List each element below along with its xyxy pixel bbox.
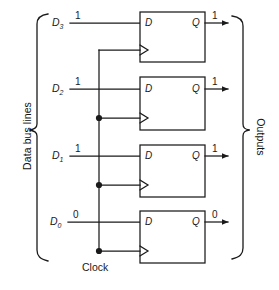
input-bit-values: 1 1 1 0	[73, 10, 81, 220]
input-value-d3: 1	[75, 10, 81, 21]
pin-d-label-d0: D	[145, 216, 152, 227]
input-label-d3: D3	[52, 16, 64, 30]
pin-q-label-d3: Q	[192, 17, 200, 28]
schematic-svg: D Q D Q D Q D Q D3 D2 D1 D0 1	[0, 0, 279, 290]
pin-q-label-d0: Q	[192, 216, 200, 227]
outputs-label: Outputs	[255, 92, 267, 182]
input-label-d2: D2	[52, 82, 64, 96]
output-value-d3: 1	[212, 10, 218, 21]
output-value-d2: 1	[212, 76, 218, 87]
input-value-d2: 1	[75, 76, 81, 87]
pin-q-label-d1: Q	[192, 150, 200, 161]
input-value-d0: 0	[73, 209, 79, 220]
input-label-d1: D1	[52, 149, 64, 163]
junction-dot-d2	[96, 115, 102, 121]
data-bus-lines-label: Data bus lines	[21, 91, 33, 181]
output-value-d0: 0	[212, 209, 218, 220]
output-value-d1: 1	[212, 143, 218, 154]
output-bit-values: 1 1 1 0	[212, 10, 218, 220]
circuit-diagram: D Q D Q D Q D Q D3 D2 D1 D0 1	[0, 0, 279, 290]
outputs-brace	[232, 16, 249, 259]
clock-label: Clock	[82, 261, 109, 273]
data-bus-labels: D3 D2 D1 D0	[50, 16, 64, 229]
pin-d-label-d3: D	[145, 17, 152, 28]
junction-dot-d0	[96, 248, 102, 254]
input-label-d0: D0	[50, 215, 62, 229]
junction-dot-d1	[96, 182, 102, 188]
pin-d-label-d2: D	[145, 83, 152, 94]
input-value-d1: 1	[75, 143, 81, 154]
pin-d-label-d1: D	[145, 150, 152, 161]
pin-q-label-d2: Q	[192, 83, 200, 94]
